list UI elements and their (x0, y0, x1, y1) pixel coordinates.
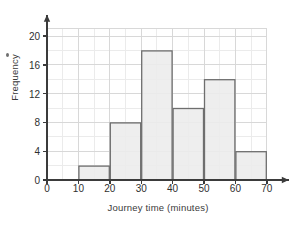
x-axis-title: Journey time (minutes) (47, 202, 269, 213)
y-axis-tick-label: 20 (18, 31, 40, 42)
y-axis-tick-labels: 048121620 (16, 0, 40, 231)
histogram-bar (142, 51, 172, 180)
histogram-bar (173, 109, 203, 181)
x-axis-tick-label: 10 (66, 183, 90, 194)
x-axis-tick-label: 60 (223, 183, 247, 194)
y-axis-tick-label: 16 (18, 59, 40, 70)
x-axis-tick-label: 40 (161, 183, 185, 194)
y-axis-tick-label: 12 (18, 88, 40, 99)
histogram-bar (79, 166, 109, 180)
x-axis-tick-label: 50 (192, 183, 216, 194)
y-axis-tick-label: 4 (18, 146, 40, 157)
x-axis-tick-label: 0 (35, 183, 59, 194)
histogram-bar (205, 80, 235, 180)
plot-area (0, 0, 298, 231)
histogram-bars (79, 51, 266, 180)
x-axis-tick-label: 70 (255, 183, 279, 194)
x-axis-tick-label: 20 (98, 183, 122, 194)
y-axis-arrowhead (44, 15, 50, 22)
y-axis-tick-label: 8 (18, 117, 40, 128)
histogram-bar (236, 152, 266, 180)
x-axis-tick-label: 30 (129, 183, 153, 194)
histogram-chart: Frequency Journey time (minutes) 0481216… (0, 0, 298, 231)
histogram-bar (110, 123, 140, 180)
x-axis-arrowhead (282, 177, 289, 183)
